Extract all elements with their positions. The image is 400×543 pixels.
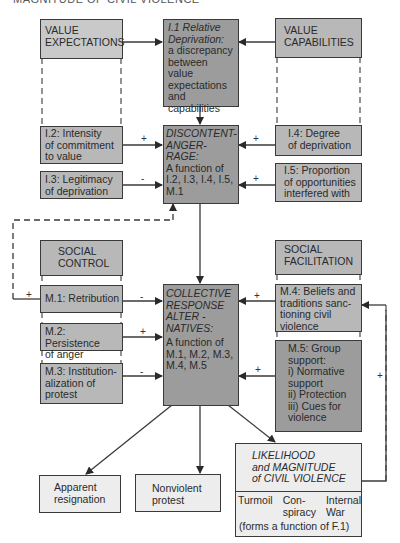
collective-response-box: COLLECTIVE RESPONSE ALTER - NATIVES: A f… xyxy=(163,284,239,406)
divider xyxy=(236,491,361,492)
social-control-label: SOCIAL CONTROL xyxy=(58,246,109,269)
m4-label: M.4: Beliefs and traditions sanc- tionin… xyxy=(280,286,355,332)
nonviolent-protest-box: Nonviolent protest xyxy=(135,474,221,512)
apparent-resignation-label: Apparent resignation xyxy=(54,482,105,505)
discontent-body: A function of I.2, I.3, I.4, I.5, M.1 xyxy=(166,163,236,198)
sign-m4: + xyxy=(254,290,260,301)
page-title: MAGNITUDE OF CIVIL VIOLENCE xyxy=(13,0,200,5)
sign-m2: + xyxy=(140,326,146,337)
sign-i5: + xyxy=(253,173,259,184)
m1-label: M.1: Retribution xyxy=(45,293,119,305)
i4-label: I.4: Degree of deprivation xyxy=(288,128,351,151)
i2-label: I.2: Intensity of commitment to value xyxy=(45,128,114,163)
m4-beliefs-box: M.4: Beliefs and traditions sanc- tionin… xyxy=(275,284,362,332)
i2-intensity-box: I.2: Intensity of commitment to value xyxy=(40,126,123,164)
civil-violence-heading: LIKELIHOOD and MAGNITUDE of CIVIL VIOLEN… xyxy=(236,444,361,490)
value-expectations-box: VALUE EXPECTATIONS xyxy=(40,19,123,59)
value-capabilities-label: VALUE CAPABILITIES xyxy=(284,25,354,48)
sign-feedback-m1: + xyxy=(26,289,32,300)
i3-legitimacy-box: I.3: Legitimacy of deprivation xyxy=(40,171,123,199)
sign-feedback-violence: + xyxy=(377,370,383,381)
social-facilitation-label: SOCIAL FACILITATION xyxy=(284,244,353,267)
m5-group-support-box: M.5: Group support: i) Normative support… xyxy=(275,340,362,432)
i3-label: I.3: Legitimacy of deprivation xyxy=(45,174,113,197)
i5-proportion-box: I.5: Proportion of opportunities interfe… xyxy=(275,163,362,202)
m2-persistence-box: M.2: Persistence of anger xyxy=(40,323,123,351)
collective-body: A function of M.1, M.2, M.3, M.4, M.5 xyxy=(166,337,236,372)
nonviolent-protest-label: Nonviolent protest xyxy=(152,483,202,506)
i5-label: I.5: Proportion of opportunities interfe… xyxy=(284,165,356,200)
sign-i2: + xyxy=(141,133,147,144)
violence-type-turmoil: Turmoil xyxy=(238,495,273,518)
value-expectations-label: VALUE EXPECTATIONS xyxy=(45,25,125,48)
m3-label: M.3: Institution- alization of protest xyxy=(45,366,117,401)
civil-violence-box: LIKELIHOOD and MAGNITUDE of CIVIL VIOLEN… xyxy=(235,443,362,537)
discontent-heading: DISCONTENT- ANGER- RAGE: xyxy=(166,128,236,163)
collective-heading: COLLECTIVE RESPONSE ALTER - NATIVES: xyxy=(166,288,236,334)
violence-type-internal-war: Internal War xyxy=(326,495,361,518)
sign-m3: - xyxy=(140,366,143,377)
relative-deprivation-body: a discrepancy between value expectations… xyxy=(168,45,234,114)
relative-deprivation-heading: I.1 Relative Deprivation: xyxy=(168,22,234,45)
sign-m1: - xyxy=(140,291,143,302)
i4-degree-box: I.4: Degree of deprivation xyxy=(275,125,362,156)
relative-deprivation-box: I.1 Relative Deprivation: a discrepancy … xyxy=(163,19,239,107)
civil-violence-footnote: (forms a function of F.1) xyxy=(239,521,349,533)
sign-i3: - xyxy=(141,173,144,184)
social-control-box: SOCIAL CONTROL xyxy=(40,240,123,276)
m5-label: M.5: Group support: i) Normative support… xyxy=(288,343,346,424)
apparent-resignation-box: Apparent resignation xyxy=(39,475,121,513)
violence-type-conspiracy: Con- spiracy xyxy=(283,495,316,518)
m3-institutionalization-box: M.3: Institution- alization of protest xyxy=(40,363,123,404)
social-facilitation-box: SOCIAL FACILITATION xyxy=(275,240,362,275)
discontent-box: DISCONTENT- ANGER- RAGE: A function of I… xyxy=(163,125,239,204)
sign-m5: + xyxy=(255,364,261,375)
m1-retribution-box: M.1: Retribution xyxy=(40,285,123,313)
m2-label: M.2: Persistence of anger xyxy=(45,326,122,361)
sign-i4: + xyxy=(253,133,259,144)
value-capabilities-box: VALUE CAPABILITIES xyxy=(275,18,362,58)
